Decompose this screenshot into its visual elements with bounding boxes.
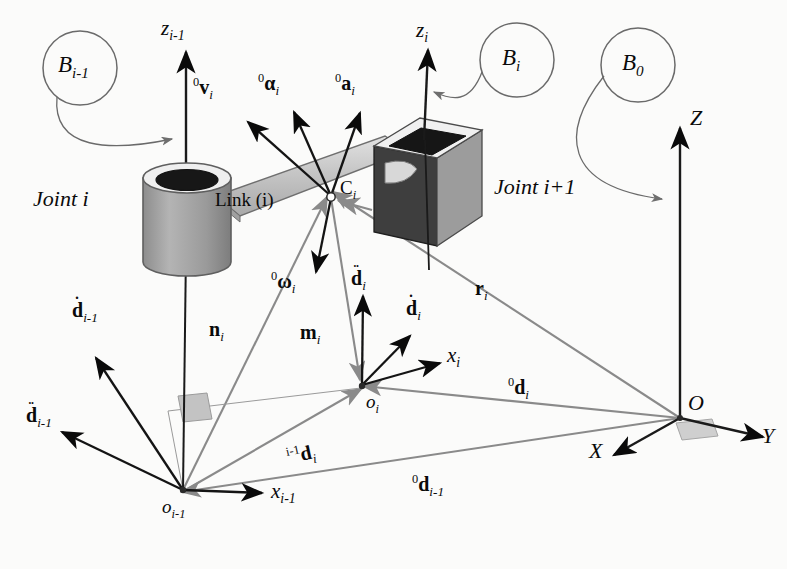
vector-arrow-into-ci[interactable] (339, 201, 372, 210)
base-origin-node (677, 415, 683, 421)
frame-tag-label-b-im1: Bi-1 (58, 53, 89, 80)
frame-tag-label-b-0: B0 (622, 51, 644, 78)
vector-label-dot-d-im1: ̇di-1 (72, 300, 98, 324)
vector-arrow-omega-i[interactable] (316, 198, 331, 272)
joint-i-plus-1-label: Joint i+1 (494, 176, 575, 198)
vector-label-omega-i: 0ωi (271, 270, 296, 295)
axis-label-base-origin: O (688, 392, 704, 414)
link-i-label: Link (i) (215, 190, 274, 209)
kinematics-diagram-canvas: Bi-1 Bi B0 zi-1 zi xi-1 xi Z Y X O Joint… (0, 0, 787, 569)
vectors-at-origin-i (359, 296, 440, 389)
center-of-mass-label: Ci (340, 178, 356, 201)
vector-label-ddot-d-im1: ¨di-1 (26, 405, 52, 429)
origin-i-minus-1-node (180, 487, 186, 493)
vector-label-d-i-base: 0di (508, 376, 529, 401)
axis-label-z-cur: zi (416, 20, 428, 45)
axis-line-z-prev-lower (183, 250, 186, 490)
vector-label-v-i: 0vi (193, 76, 213, 101)
frame-tag-leader-b-0 (577, 76, 662, 199)
axis-label-z-prev: zi-1 (161, 18, 185, 43)
axis-arrow-x-prev[interactable] (183, 490, 262, 493)
diagram-vector-graphics (0, 0, 787, 569)
joint-i-cylinder[interactable] (143, 163, 231, 276)
origin-label-o-cur: oi (366, 392, 379, 415)
center-of-mass-node (327, 193, 335, 201)
axis-label-base-Z: Z (690, 107, 702, 129)
vector-label-n-i: ni (209, 319, 224, 343)
axis-label-x-prev: xi-1 (271, 481, 296, 506)
vector-arrow-ddot-d-i[interactable] (362, 296, 363, 385)
origin-i-node (359, 383, 365, 389)
axis-label-x-cur: xi (447, 345, 460, 370)
vector-label-ddot-d-i: ¨di (351, 268, 366, 292)
vector-label-alpha-i: 0αi (258, 72, 279, 97)
axis-label-base-Y: Y (762, 425, 774, 447)
frame-tag-leader-b-i (434, 72, 482, 98)
vector-label-a-i: 0ai (335, 72, 355, 97)
vectors-at-origin-i-minus-1 (62, 358, 262, 493)
vector-label-d-im1-base: 0di-1 (412, 473, 444, 498)
frame-tag-label-b-i: Bi (502, 46, 520, 73)
origin-label-o-prev: oi-1 (162, 497, 185, 520)
joint-i-label: Joint i (33, 188, 89, 210)
frame-tag-callouts (43, 23, 675, 199)
vector-label-r-i: ri (475, 278, 488, 302)
vector-label-m-i: mi (300, 322, 320, 346)
vector-label-dot-d-i: ̇di (406, 298, 421, 322)
axis-label-base-X: X (589, 440, 602, 462)
